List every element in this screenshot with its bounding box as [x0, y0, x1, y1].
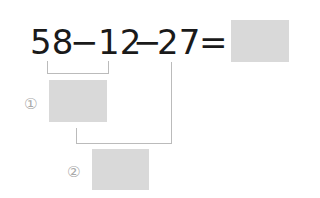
step-1-label: ① — [24, 96, 37, 112]
number-12: 12 — [98, 22, 138, 62]
equals-sign: = — [199, 22, 229, 62]
connector-from-27 — [171, 62, 172, 144]
answer-box[interactable] — [231, 20, 289, 62]
number-58: 58 — [30, 22, 70, 62]
connector-bottom — [76, 143, 172, 144]
bracket-bottom — [47, 73, 109, 74]
step-2-box[interactable] — [92, 149, 149, 190]
step-2-label: ② — [67, 164, 80, 180]
step-1-box[interactable] — [49, 80, 107, 122]
connector-from-step1 — [76, 128, 77, 144]
number-27: 27 — [157, 22, 197, 62]
